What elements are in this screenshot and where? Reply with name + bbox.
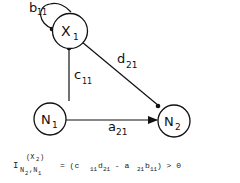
label-c11: c 11 — [74, 67, 92, 86]
svg-text:21: 21 — [116, 127, 127, 137]
node-x1: X 1 — [53, 14, 88, 49]
formula-eq: = (c — [60, 161, 79, 170]
d21-endpoint-dot — [156, 104, 161, 109]
formula: (X 2 ) I N 2 ,N 1 = (c 11 d 21 - a 21 b … — [13, 153, 181, 177]
node-n1: N 1 — [34, 103, 66, 135]
svg-text:1: 1 — [38, 170, 42, 177]
label-b11: b 11 — [29, 0, 47, 17]
node-n1-sub: 1 — [52, 120, 58, 130]
formula-sup: (X — [26, 153, 35, 161]
svg-text:21: 21 — [126, 60, 137, 70]
node-n1-label: N — [41, 112, 51, 127]
node-n2-sub: 2 — [175, 122, 181, 132]
svg-text:c: c — [74, 67, 81, 82]
node-n2-label: N — [164, 114, 174, 129]
svg-text:2: 2 — [36, 156, 39, 163]
node-x1-sub: 1 — [73, 32, 79, 42]
svg-text:11: 11 — [37, 8, 47, 17]
svg-text:- a: - a — [110, 161, 129, 170]
node-n2: N 2 — [158, 105, 190, 137]
svg-text:): ) — [40, 153, 44, 161]
svg-text:) > 0: ) > 0 — [157, 161, 181, 170]
svg-text:11: 11 — [82, 77, 92, 86]
svg-text:d: d — [117, 51, 125, 66]
svg-text:N: N — [20, 166, 24, 174]
network-diagram: X 1 N 1 N 2 b 11 c 11 d 21 a 21 (X 2 ) I… — [0, 0, 240, 183]
label-a21: a 21 — [108, 119, 127, 137]
svg-text:2: 2 — [25, 170, 28, 177]
svg-text:21: 21 — [137, 166, 145, 173]
formula-I: I — [13, 161, 18, 171]
label-d21: d 21 — [117, 51, 137, 70]
svg-text:a: a — [108, 119, 116, 134]
node-x1-label: X — [61, 23, 71, 39]
svg-text:,N: ,N — [29, 166, 37, 174]
svg-text:11: 11 — [90, 166, 98, 173]
